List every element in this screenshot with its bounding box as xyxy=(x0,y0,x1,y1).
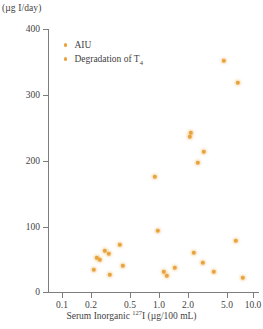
x-tick-mark xyxy=(227,293,228,298)
legend-marker-aiu xyxy=(64,43,67,46)
x-axis-title-suffix: I (µg/100 mL) xyxy=(142,311,197,321)
x-tick-label: 0.2 xyxy=(85,300,97,310)
x-tick-label: 2.0 xyxy=(182,300,194,310)
x-axis-title-prefix: Serum Inorganic xyxy=(66,311,132,321)
legend-label-degradation-t4: Degradation of T4 xyxy=(74,54,143,64)
x-tick-label: 1.0 xyxy=(153,300,165,310)
scatter-chart-figure: (µg I/day) 4003002001000 0.10.20.51.02.0… xyxy=(0,0,263,329)
x-tick-mark xyxy=(253,293,254,298)
x-tick-label: 5.0 xyxy=(221,300,233,310)
y-tick-label: 0 xyxy=(35,287,40,297)
y-tick-label: 200 xyxy=(26,156,40,166)
x-tick-mark xyxy=(130,293,131,298)
legend-label-degradation-t4-subscript: 4 xyxy=(140,59,143,66)
y-tick-mark xyxy=(43,292,48,293)
legend-item-degradation-t4[interactable]: Degradation of T4 xyxy=(64,52,143,66)
plot-area xyxy=(48,29,258,292)
x-tick-mark xyxy=(188,293,189,298)
y-tick-label: 100 xyxy=(26,222,40,232)
y-tick-label: 400 xyxy=(26,24,40,34)
x-axis-title: Serum Inorganic 127I (µg/100 mL) xyxy=(0,311,263,321)
legend-label-aiu: AIU xyxy=(74,40,91,50)
legend-item-aiu[interactable]: AIU xyxy=(64,38,143,52)
x-tick-label: 0.1 xyxy=(56,300,68,310)
x-tick-mark xyxy=(62,293,63,298)
chart-legend: AIU Degradation of T4 xyxy=(64,38,143,66)
x-tick-mark xyxy=(91,293,92,298)
x-axis-title-superscript: 127 xyxy=(132,309,142,316)
y-axis-unit-caption: (µg I/day) xyxy=(2,3,41,13)
legend-marker-degradation-t4 xyxy=(64,57,67,60)
legend-label-degradation-t4-base: Degradation of T xyxy=(74,54,139,64)
x-tick-label: 10.0 xyxy=(245,300,262,310)
x-tick-mark xyxy=(159,293,160,298)
y-tick-label: 300 xyxy=(26,90,40,100)
